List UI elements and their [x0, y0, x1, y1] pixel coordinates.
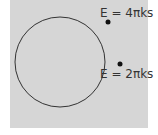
upper-point-label: E = 4πks [100, 6, 153, 20]
lower-point-dot [118, 62, 123, 67]
lower-point-label: E = 2πks [100, 67, 153, 81]
gaussian-circle [15, 17, 105, 107]
upper-point-dot [106, 20, 111, 25]
gaussian-surface-diagram: E = 4πks E = 2πks [0, 0, 158, 135]
